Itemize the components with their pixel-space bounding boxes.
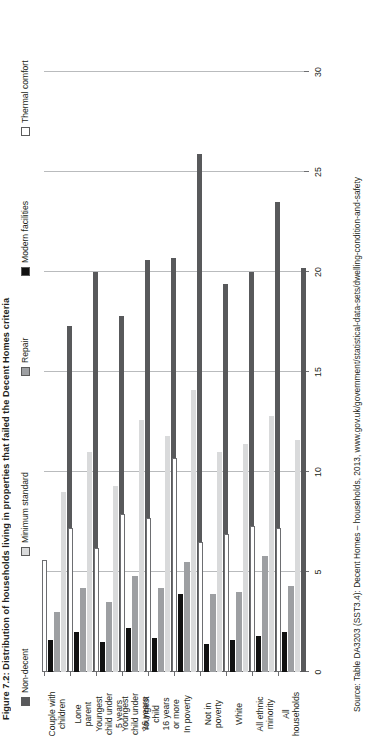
legend-label-repair: Repair bbox=[20, 338, 30, 363]
legend-label-non_decent: Non-decent bbox=[20, 649, 30, 693]
axis-tick-25 bbox=[304, 171, 309, 172]
bar-group: Youngestchild under5 years bbox=[96, 72, 122, 672]
page-title: Figure 7.2: Distribution of households l… bbox=[1, 20, 11, 720]
bar-modern-facilities[interactable] bbox=[100, 642, 106, 672]
bar-modern-facilities[interactable] bbox=[282, 632, 288, 672]
bar-thermal-comfort[interactable] bbox=[172, 458, 178, 672]
legend-swatch-non_decent bbox=[21, 697, 30, 706]
bar-thermal-comfort[interactable] bbox=[198, 542, 204, 672]
bar-modern-facilities[interactable] bbox=[256, 636, 262, 672]
bar-group: Not inpoverty bbox=[200, 72, 226, 672]
axis-tick-30 bbox=[304, 71, 309, 72]
bar-group: All ethnicminority bbox=[252, 72, 278, 672]
bar-repair[interactable] bbox=[54, 612, 60, 672]
bar-group: Youngestchild under16 years bbox=[122, 72, 148, 672]
bar-minimum-standard[interactable] bbox=[87, 452, 93, 672]
bar-minimum-standard[interactable] bbox=[295, 440, 301, 672]
group-separator bbox=[122, 672, 123, 676]
chart-legend: Non-decentMinimum standardRepairModern f… bbox=[20, 16, 36, 706]
bar-repair[interactable] bbox=[106, 602, 112, 672]
bar-modern-facilities[interactable] bbox=[126, 628, 132, 672]
legend-label-modern_facilities: Modern facilities bbox=[20, 201, 30, 263]
group-separator bbox=[44, 672, 45, 676]
category-label: Not inpoverty bbox=[203, 680, 223, 740]
bar-group: In poverty bbox=[174, 72, 200, 672]
bar-minimum-standard[interactable] bbox=[217, 452, 223, 672]
bar-repair[interactable] bbox=[236, 592, 242, 672]
bar-thermal-comfort[interactable] bbox=[42, 560, 48, 672]
bar-group: Youngestchild16 yearsor more bbox=[148, 72, 174, 672]
axis-tick-label-5: 5 bbox=[313, 570, 323, 575]
axis-tick-label-25: 25 bbox=[313, 167, 323, 177]
bar-repair[interactable] bbox=[132, 576, 138, 672]
group-separator bbox=[148, 672, 149, 676]
bar-minimum-standard[interactable] bbox=[165, 436, 171, 672]
bar-thermal-comfort[interactable] bbox=[120, 514, 126, 672]
legend-swatch-repair bbox=[21, 367, 30, 376]
bar-thermal-comfort[interactable] bbox=[68, 528, 74, 672]
bar-minimum-standard[interactable] bbox=[191, 390, 197, 672]
bar-thermal-comfort[interactable] bbox=[276, 528, 282, 672]
bar-repair[interactable] bbox=[210, 594, 216, 672]
category-label: White bbox=[234, 680, 244, 740]
bar-group: Allhouseholds bbox=[278, 72, 304, 672]
bar-modern-facilities[interactable] bbox=[204, 644, 210, 672]
legend-item-repair[interactable]: Repair bbox=[20, 338, 30, 376]
group-separator bbox=[174, 672, 175, 676]
bar-chart-plot: 051015202530Couple withchildrenLoneparen… bbox=[44, 72, 304, 672]
group-separator bbox=[252, 672, 253, 676]
legend-swatch-modern_facilities bbox=[21, 267, 30, 276]
source-note: Source: Table DA3203 (SST3.4): Decent Ho… bbox=[352, 0, 362, 712]
axis-tick-label-15: 15 bbox=[313, 367, 323, 377]
bar-repair[interactable] bbox=[262, 556, 268, 672]
bar-minimum-standard[interactable] bbox=[113, 486, 119, 672]
group-separator bbox=[200, 672, 201, 676]
bar-thermal-comfort[interactable] bbox=[94, 548, 100, 672]
bar-non-decent[interactable] bbox=[301, 268, 307, 672]
category-label: In poverty bbox=[182, 680, 192, 740]
legend-swatch-minimum_standard bbox=[21, 547, 30, 556]
bar-thermal-comfort[interactable] bbox=[250, 526, 256, 672]
bar-group: White bbox=[226, 72, 252, 672]
group-separator bbox=[226, 672, 227, 676]
bar-group: Loneparent bbox=[70, 72, 96, 672]
group-separator bbox=[70, 672, 71, 676]
bar-repair[interactable] bbox=[184, 562, 190, 672]
category-label: Allhouseholds bbox=[281, 680, 301, 740]
bar-repair[interactable] bbox=[288, 586, 294, 672]
axis-tick-label-0: 0 bbox=[313, 670, 323, 675]
legend-item-modern_facilities[interactable]: Modern facilities bbox=[20, 201, 30, 276]
bar-minimum-standard[interactable] bbox=[243, 444, 249, 672]
legend-swatch-thermal_comfort bbox=[21, 127, 30, 136]
category-label: Youngestchild16 yearsor more bbox=[141, 680, 181, 740]
legend-item-non_decent[interactable]: Non-decent bbox=[20, 649, 30, 706]
bar-repair[interactable] bbox=[158, 588, 164, 672]
axis-tick-label-30: 30 bbox=[313, 67, 323, 77]
bar-modern-facilities[interactable] bbox=[74, 632, 80, 672]
bar-thermal-comfort[interactable] bbox=[224, 534, 230, 672]
legend-label-minimum_standard: Minimum standard bbox=[20, 472, 30, 543]
category-label: All ethnicminority bbox=[255, 680, 275, 740]
bar-minimum-standard[interactable] bbox=[139, 420, 145, 672]
bar-repair[interactable] bbox=[80, 588, 86, 672]
legend-item-minimum_standard[interactable]: Minimum standard bbox=[20, 472, 30, 556]
bar-minimum-standard[interactable] bbox=[269, 416, 275, 672]
group-separator bbox=[96, 672, 97, 676]
category-label: Couple withchildren bbox=[47, 680, 67, 740]
bar-minimum-standard[interactable] bbox=[61, 492, 67, 672]
bar-thermal-comfort[interactable] bbox=[146, 518, 152, 672]
axis-tick-label-20: 20 bbox=[313, 267, 323, 277]
bar-modern-facilities[interactable] bbox=[178, 594, 184, 672]
category-label: Loneparent bbox=[73, 680, 93, 740]
bar-modern-facilities[interactable] bbox=[48, 640, 54, 672]
axis-tick-label-10: 10 bbox=[313, 467, 323, 477]
legend-item-thermal_comfort[interactable]: Thermal comfort bbox=[20, 60, 30, 136]
group-separator bbox=[278, 672, 279, 676]
bar-group: Couple withchildren bbox=[44, 72, 70, 672]
bar-modern-facilities[interactable] bbox=[230, 640, 236, 672]
legend-label-thermal_comfort: Thermal comfort bbox=[20, 60, 30, 123]
bar-modern-facilities[interactable] bbox=[152, 638, 158, 672]
